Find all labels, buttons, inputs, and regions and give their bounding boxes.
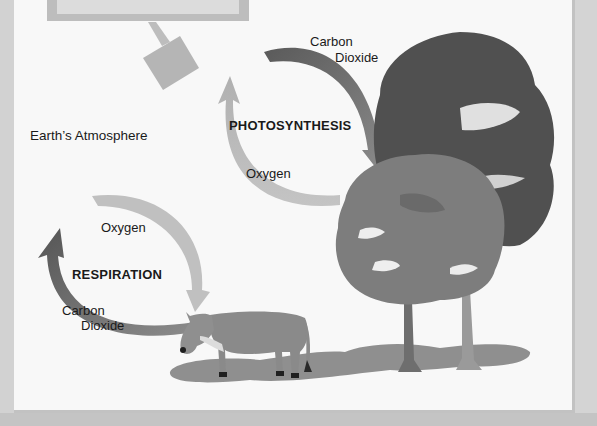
respiration-o2-label: Oxygen	[101, 220, 146, 235]
top-box	[47, 0, 249, 46]
respiration-co2-label-line2: Dioxide	[81, 318, 124, 333]
respiration-co2-label-line1: Carbon	[62, 303, 105, 318]
photosynthesis-co2-label-line2: Dioxide	[335, 50, 378, 65]
sun-square-icon	[143, 36, 199, 90]
respiration-o2-arrow	[92, 195, 210, 312]
front-tree	[336, 154, 505, 372]
diagram-illustration	[0, 0, 597, 426]
photosynthesis-o2-label: Oxygen	[246, 166, 291, 181]
respiration-title: RESPIRATION	[72, 267, 162, 282]
photosynthesis-co2-label-line1: Carbon	[310, 34, 353, 49]
atmosphere-label: Earth’s Atmosphere	[30, 128, 148, 143]
photosynthesis-co2-arrow	[264, 48, 386, 168]
photosynthesis-title: PHOTOSYNTHESIS	[229, 118, 351, 133]
photosynthesis-o2-arrow	[218, 76, 340, 206]
